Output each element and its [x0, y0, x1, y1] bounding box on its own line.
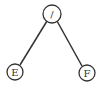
edge-root-left — [20, 21, 47, 65]
edge-root-right — [57, 21, 82, 66]
node-right-label: F — [84, 68, 91, 79]
node-right: F — [79, 65, 95, 81]
tree-diagram: / E F — [0, 0, 104, 91]
node-left: E — [7, 64, 23, 80]
node-left-label: E — [11, 67, 18, 78]
node-root: / — [43, 5, 61, 23]
